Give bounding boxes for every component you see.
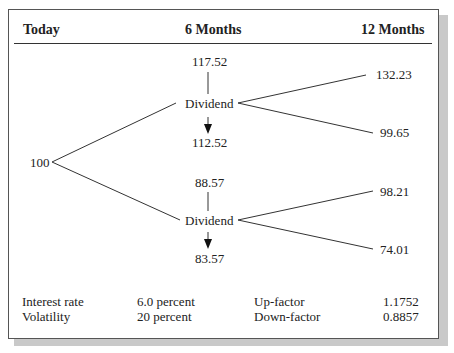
down-factor-value: 0.8857 — [383, 309, 419, 325]
down-factor-label: Down-factor — [254, 309, 320, 325]
lower-up-value: 98.21 — [380, 184, 409, 200]
upper-post-dividend: 112.52 — [192, 135, 227, 151]
up-factor-value: 1.1752 — [383, 294, 419, 310]
lower-pre-dividend: 88.57 — [195, 175, 224, 191]
root-value: 100 — [30, 155, 50, 171]
volatility-label: Volatility — [22, 309, 70, 325]
interest-rate-value: 6.0 percent — [137, 294, 195, 310]
upper-dividend-label: Dividend — [185, 96, 233, 112]
upper-down-value: 99.65 — [380, 125, 409, 141]
upper-up-value: 132.23 — [376, 67, 412, 83]
lower-dividend-label: Dividend — [185, 213, 233, 229]
upper-pre-dividend: 117.52 — [192, 54, 227, 70]
lower-post-dividend: 83.57 — [195, 251, 224, 267]
volatility-value: 20 percent — [137, 309, 192, 325]
interest-rate-label: Interest rate — [22, 294, 84, 310]
lower-down-value: 74.01 — [380, 242, 409, 258]
up-factor-label: Up-factor — [254, 294, 305, 310]
